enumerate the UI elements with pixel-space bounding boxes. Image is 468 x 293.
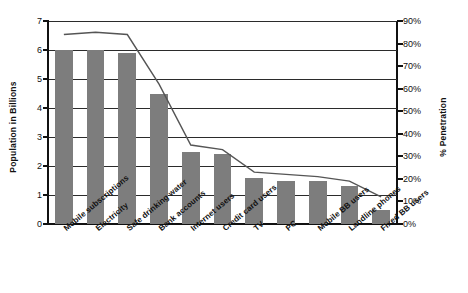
y-axis-left-tick <box>43 136 49 138</box>
y-axis-left-tick-label: 4 <box>37 104 42 113</box>
x-axis-category-labels: Mobile subscriptionsElectricitySafe drin… <box>48 226 397 293</box>
y-axis-left-tick-label: 6 <box>37 46 42 55</box>
y-axis-left-tick-label: 0 <box>37 220 42 229</box>
y-axis-left-tick <box>43 78 49 80</box>
y-axis-right-tick-label: 20% <box>403 174 421 183</box>
y-axis-right-tick <box>397 133 403 135</box>
y-axis-left-title: Population in Billions <box>8 72 18 182</box>
y-axis-left-tick-label: 2 <box>37 162 42 171</box>
y-axis-right-tick-label: 30% <box>403 152 421 161</box>
y-axis-right-tick <box>397 20 403 22</box>
y-axis-left-tick <box>43 20 49 22</box>
penetration-line <box>64 32 381 197</box>
y-axis-right-tick-label: 70% <box>403 62 421 71</box>
y-axis-right-tick <box>397 155 403 157</box>
chart-container: 01234567 0%10%20%30%40%50%60%70%80%90% P… <box>0 0 468 293</box>
y-axis-right-tick <box>397 110 403 112</box>
y-axis-left-tick <box>43 165 49 167</box>
y-axis-right-tick-label: 40% <box>403 129 421 138</box>
y-axis-left-tick <box>43 194 49 196</box>
y-axis-right-tick-label: 90% <box>403 17 421 26</box>
y-axis-right-tick <box>397 43 403 45</box>
y-axis-right-tick-label: 60% <box>403 84 421 93</box>
y-axis-right-tick <box>397 178 403 180</box>
y-axis-left-tick <box>43 223 49 225</box>
y-axis-left-tick <box>43 107 49 109</box>
y-axis-left-tick-label: 7 <box>37 17 42 26</box>
y-axis-right-tick-label: 80% <box>403 39 421 48</box>
y-axis-right-tick <box>397 223 403 225</box>
y-axis-right-tick-label: 50% <box>403 107 421 116</box>
y-axis-left-tick <box>43 49 49 51</box>
y-axis-left: 01234567 <box>18 21 42 224</box>
y-axis-right-title: % Penetration <box>438 72 448 182</box>
y-axis-right-tick-label: 0% <box>403 220 416 229</box>
y-axis-left-tick-label: 3 <box>37 133 42 142</box>
y-axis-right-tick <box>397 88 403 90</box>
y-axis-left-tick-label: 5 <box>37 75 42 84</box>
y-axis-right-tick <box>397 200 403 202</box>
y-axis-right-tick <box>397 65 403 67</box>
y-axis-left-tick-label: 1 <box>37 191 42 200</box>
